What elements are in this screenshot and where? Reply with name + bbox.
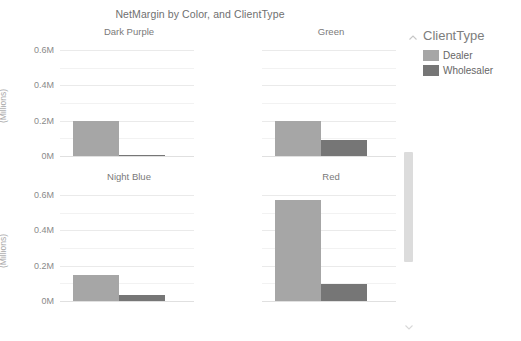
vertical-scrollbar[interactable] [404, 40, 413, 318]
gridline [60, 103, 194, 104]
gridline [60, 230, 194, 231]
y-axis: 0M0.2M0.4M0.6M(Millions) [0, 44, 54, 184]
y-axis-unit-label: (Millions) [0, 234, 8, 268]
facet-red: Red [202, 171, 400, 311]
facet-title: Red [262, 171, 400, 182]
gridline [60, 85, 194, 86]
axis-baseline [262, 156, 396, 157]
gridline [60, 68, 194, 69]
legend-swatch-dealer [423, 50, 439, 61]
bar-dealer[interactable] [73, 275, 119, 301]
facet-title: Dark Purple [60, 26, 198, 37]
bar-dealer[interactable] [275, 200, 321, 301]
y-tick-label: 0.6M [34, 45, 54, 55]
axis-baseline [60, 156, 194, 157]
chevron-down-icon[interactable] [404, 322, 414, 332]
gridline [262, 103, 396, 104]
y-tick-label: 0.2M [34, 116, 54, 126]
gridline [262, 195, 396, 196]
gridline [262, 68, 396, 69]
plot-area: Dark Purple0M0.2M0.4M0.6M(Millions)Green… [0, 26, 400, 341]
y-axis: 0M0.2M0.4M0.6M(Millions) [0, 189, 54, 329]
y-axis-unit-label: (Millions) [0, 89, 8, 123]
legend-item-wholesaler[interactable]: Wholesaler [423, 65, 521, 76]
facet-title: Night Blue [60, 171, 198, 182]
legend: ClientType Dealer Wholesaler [423, 28, 521, 80]
y-tick-label: 0.6M [34, 190, 54, 200]
bar-dealer[interactable] [275, 121, 321, 156]
gridline [60, 266, 194, 267]
facet-plot-body [60, 189, 194, 311]
y-tick-label: 0.4M [34, 225, 54, 235]
y-axis [202, 189, 256, 329]
vertical-scrollbar-thumb[interactable] [404, 152, 413, 262]
gridline [60, 50, 194, 51]
gridline [60, 195, 194, 196]
y-tick-label: 0M [41, 151, 54, 161]
y-tick-label: 0.2M [34, 261, 54, 271]
legend-label-wholesaler: Wholesaler [443, 65, 493, 76]
bar-wholesaler[interactable] [321, 140, 367, 156]
legend-swatch-wholesaler [423, 65, 439, 76]
legend-label-dealer: Dealer [443, 50, 472, 61]
chart-title: NetMargin by Color, and ClientType [0, 8, 400, 20]
y-tick-label: 0.4M [34, 80, 54, 90]
axis-baseline [60, 301, 194, 302]
facet-night-blue: Night Blue0M0.2M0.4M0.6M(Millions) [0, 171, 198, 311]
facet-plot-body [60, 44, 194, 166]
legend-item-dealer[interactable]: Dealer [423, 50, 521, 61]
gridline [262, 50, 396, 51]
facet-green: Green [202, 26, 400, 166]
bar-dealer[interactable] [73, 121, 119, 156]
bar-wholesaler[interactable] [119, 295, 165, 301]
bar-wholesaler[interactable] [119, 155, 165, 157]
y-axis [202, 44, 256, 184]
y-tick-label: 0M [41, 296, 54, 306]
facet-plot-body [262, 44, 396, 166]
legend-title: ClientType [423, 28, 521, 43]
gridline [60, 248, 194, 249]
bar-wholesaler[interactable] [321, 284, 367, 301]
facet-dark-purple: Dark Purple0M0.2M0.4M0.6M(Millions) [0, 26, 198, 166]
axis-baseline [262, 301, 396, 302]
facet-title: Green [262, 26, 400, 37]
gridline [262, 85, 396, 86]
chart-visual: NetMargin by Color, and ClientType Dark … [0, 0, 521, 341]
gridline [60, 213, 194, 214]
facet-plot-body [262, 189, 396, 311]
